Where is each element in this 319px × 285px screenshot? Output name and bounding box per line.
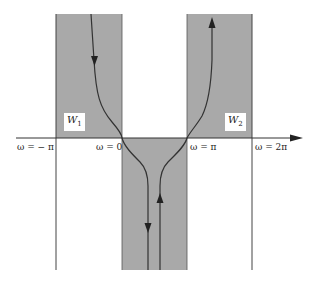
region-subscript: 1 [77,120,81,128]
label-omega-neg-pi: ω = − π [17,142,54,152]
label-omega-pi: ω = π [190,142,217,152]
region-name: W [228,114,238,125]
label-omega-zero: ω = 0 [96,142,122,152]
region-label-w2: W2 [225,113,246,131]
region-subscript: 2 [238,120,242,128]
region-name: W [67,114,77,125]
region-label-w1: W1 [64,113,85,131]
label-omega-two-pi: ω = 2π [255,142,287,152]
region-center [122,138,187,270]
axis-arrow-icon [290,135,303,142]
